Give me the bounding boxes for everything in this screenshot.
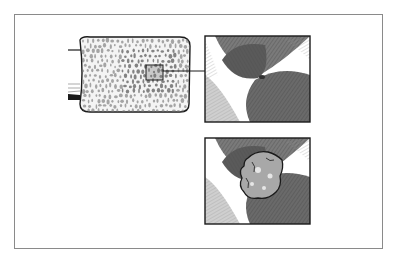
bone-pore [130,105,132,107]
bone-pore [98,104,101,107]
bone-pore [110,64,112,67]
bone-pore [130,74,132,78]
bone-pore [132,70,134,74]
bone-pore [119,45,122,48]
bone-pore [133,84,136,88]
bone-pore [91,59,94,63]
bone-pore [99,84,101,88]
bone-pore [111,90,113,93]
bone-pore [161,50,164,52]
bone-pore [166,39,169,42]
bone-pore [182,38,184,41]
bone-pore [172,110,176,113]
bone-pore [91,89,94,93]
bone-pore [165,63,167,66]
bone-pore [105,54,107,57]
bone-pore [180,54,183,59]
bone-pore [111,100,113,103]
bone-pore [148,93,151,98]
bone-pore [94,74,97,76]
bone-pore [84,45,86,48]
bone-pore [169,104,173,107]
bone-pore [111,50,113,52]
bone-pore [119,54,122,59]
bone-pore [116,40,119,43]
bone-pore [147,48,149,52]
bone-pore [132,79,134,84]
bone-pore [101,59,103,62]
highlight-region-box [146,65,163,80]
bone-pore [155,45,157,48]
bone-pore [119,94,123,98]
bone-pore [138,59,140,63]
bone-pore [145,94,148,98]
bone-pore [181,98,185,103]
bone-pore [97,60,99,63]
bone-pore [91,99,93,102]
bone-pore [183,54,186,57]
bone-pore [175,83,177,88]
bone-pore [96,94,98,97]
bone-pore [183,84,186,88]
bone-pore [161,81,165,83]
bone-pore [103,104,107,106]
bone-pore [173,103,175,107]
bone-pore [173,99,176,102]
bone-pore [187,60,189,64]
bone-pore [88,105,91,108]
bone-pore [99,94,101,97]
bone-pore [147,59,149,63]
bone-pore [121,41,124,44]
bone-pore [114,66,116,68]
bone-pore [140,44,142,47]
bone-pore [132,98,134,102]
bone-pore [149,44,151,49]
bone-pore [107,99,110,104]
bone-pore [131,60,134,63]
bone-pore [118,100,120,103]
bone-pore [82,70,84,73]
bone-pore [101,68,103,72]
bone-pore [132,38,134,43]
bone-pore [110,39,114,42]
bone-pore [137,100,139,103]
bone-pore [96,49,100,53]
bone-pore [87,39,89,44]
bone-pore [113,70,115,74]
bone-pore [86,90,89,93]
bone-pore [146,99,148,101]
bone-pore [149,55,152,58]
bone-pore [83,80,85,85]
bone-pore [142,39,145,43]
bone-pore [138,50,140,53]
bone-pore [136,81,140,84]
bone-pore [148,103,151,108]
bone-pore [107,49,110,52]
bone-pore [158,39,161,43]
bone-pore [151,39,154,43]
bone-pore [133,49,135,53]
bone-pore [117,68,121,72]
bone-pore [157,59,159,64]
bone-pore [124,43,126,47]
bone-pore [114,73,117,77]
bone-pore [101,79,104,83]
bone-pore [101,88,104,93]
bone-pore [177,80,179,84]
bone-pore [136,40,139,43]
bone-pore [106,59,108,63]
bone-pore [110,74,113,77]
bone-pore [186,79,189,82]
bone-pore [108,90,110,94]
bone-pore [82,89,86,94]
bone-pore [155,93,158,96]
bone-pore [97,39,100,42]
bone-pore [142,49,144,53]
bone-pore [184,74,187,77]
bone-pore [106,38,110,43]
bone-pore [94,65,96,69]
bone-pore [157,49,159,51]
bone-pore [165,85,167,89]
bone-pore [127,69,129,74]
bone-pore [111,79,114,83]
